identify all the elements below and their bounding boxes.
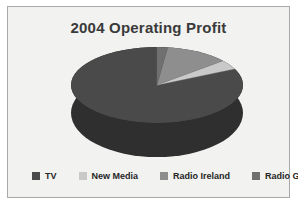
legend-label: Radio Ireland xyxy=(173,171,230,181)
pie-chart xyxy=(71,47,243,157)
chart-title: 2004 Operating Profit xyxy=(8,19,289,36)
legend-swatch-icon xyxy=(252,172,260,180)
chart-figure: 2004 Operating Profit TV New Media Radio… xyxy=(0,0,298,206)
legend-label: Radio GB xyxy=(265,171,298,181)
legend-item-tv[interactable]: TV xyxy=(32,171,57,181)
legend-item-radio-ireland[interactable]: Radio Ireland xyxy=(160,171,230,181)
pie-slices-svg xyxy=(71,47,243,123)
legend-swatch-icon xyxy=(79,172,87,180)
legend-label: New Media xyxy=(92,171,139,181)
legend-swatch-icon xyxy=(32,172,40,180)
legend-label: TV xyxy=(45,171,57,181)
legend-item-radio-gb[interactable]: Radio GB xyxy=(252,171,298,181)
pie-top-face xyxy=(71,47,243,123)
chart-frame: 2004 Operating Profit TV New Media Radio… xyxy=(7,6,290,198)
legend-item-new-media[interactable]: New Media xyxy=(79,171,139,181)
legend-swatch-icon xyxy=(160,172,168,180)
chart-legend: TV New Media Radio Ireland Radio GB xyxy=(16,169,281,183)
